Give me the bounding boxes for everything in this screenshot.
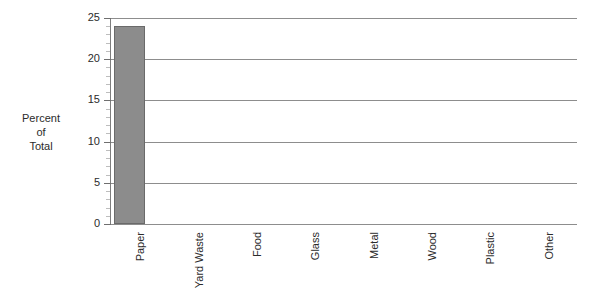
y-axis-minor-tick [106, 84, 110, 85]
y-axis-minor-tick [106, 76, 110, 77]
y-axis-major-tick [104, 18, 111, 19]
y-axis-minor-tick [106, 166, 110, 167]
y-axis-minor-tick [106, 158, 110, 159]
y-axis-minor-tick [106, 199, 110, 200]
y-axis-minor-tick [106, 34, 110, 35]
y-axis-minor-tick [106, 133, 110, 134]
x-axis-tick-label: Other [543, 232, 555, 260]
y-axis-major-tick [104, 183, 111, 184]
y-axis-tick-label: 20 [74, 52, 100, 64]
x-axis-tick-label: Yard Waste [193, 232, 205, 288]
bar [114, 26, 145, 224]
x-axis-tick-label: Wood [426, 232, 438, 261]
y-axis-tick-label: 10 [74, 135, 100, 147]
y-axis-minor-tick [106, 208, 110, 209]
gridline [110, 59, 577, 60]
gridline [110, 100, 577, 101]
plot-area [110, 18, 577, 224]
y-axis-minor-tick [106, 43, 110, 44]
y-axis-major-tick [104, 59, 111, 60]
x-axis-tick-label: Plastic [484, 232, 496, 264]
x-axis-tick-label: Metal [368, 232, 380, 259]
y-axis-minor-tick [106, 150, 110, 151]
y-axis-tick-label: 25 [74, 11, 100, 23]
y-axis-tick-label: 5 [74, 176, 100, 188]
x-axis-tick-label: Glass [309, 232, 321, 260]
y-axis-major-tick [104, 224, 111, 225]
y-axis-major-tick [104, 142, 111, 143]
y-axis-major-tick [104, 100, 111, 101]
y-axis-tick-label: 15 [74, 93, 100, 105]
y-axis-minor-tick [106, 109, 110, 110]
bar-chart: Percent of Total 0510152025 PaperYard Wa… [0, 0, 593, 306]
y-axis-minor-tick [106, 26, 110, 27]
y-axis-minor-tick [106, 67, 110, 68]
y-axis-minor-tick [106, 117, 110, 118]
y-axis-title: Percent of Total [8, 111, 74, 153]
y-axis-minor-tick [106, 216, 110, 217]
gridline [110, 224, 577, 225]
gridline [110, 18, 577, 19]
y-axis-tick-label: 0 [74, 217, 100, 229]
y-axis-minor-tick [106, 51, 110, 52]
y-axis-minor-tick [106, 92, 110, 93]
gridline [110, 183, 577, 184]
y-axis-minor-tick [106, 175, 110, 176]
y-axis-minor-tick [106, 125, 110, 126]
y-axis-minor-tick [106, 191, 110, 192]
gridline [110, 142, 577, 143]
x-axis-tick-label: Food [251, 232, 263, 257]
x-axis-tick-label: Paper [134, 232, 146, 261]
